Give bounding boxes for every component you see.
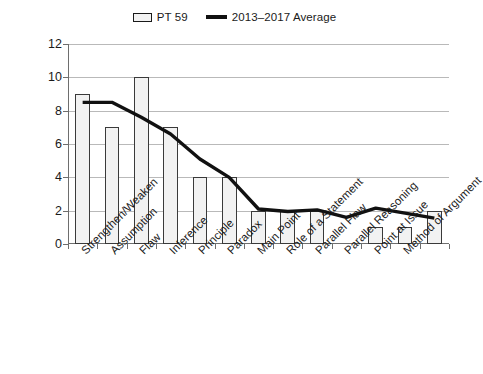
y-tick-label: 4 <box>22 170 62 184</box>
y-tick-label: 12 <box>22 37 62 51</box>
line-swatch-icon <box>206 15 227 20</box>
y-tick-label: 0 <box>22 237 62 251</box>
y-tick-label: 8 <box>22 104 62 118</box>
y-tick-label: 10 <box>22 70 62 84</box>
chart-legend: PT 59 2013–2017 Average <box>0 11 469 23</box>
legend-item-pt59: PT 59 <box>133 11 188 23</box>
legend-label-pt59: PT 59 <box>157 11 188 23</box>
legend-label-average: 2013–2017 Average <box>232 11 336 23</box>
x-tick-mark <box>449 244 450 249</box>
y-tick-label: 2 <box>22 204 62 218</box>
bar-swatch-icon <box>133 13 152 22</box>
x-axis-category-labels: Strengthen/WeakenAssumptionFlawInference… <box>68 248 449 368</box>
legend-item-average: 2013–2017 Average <box>206 11 336 23</box>
y-tick-label: 6 <box>22 137 62 151</box>
